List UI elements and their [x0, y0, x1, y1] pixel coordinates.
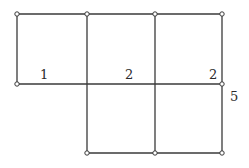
length-label-5: 5: [230, 89, 238, 104]
rectangle-net-diagram: 1 2 2 5: [0, 0, 249, 168]
vertex-point: [220, 151, 224, 155]
vertex-point: [153, 151, 157, 155]
vertex-point: [15, 82, 19, 86]
labels-group: 1 2 2 5: [40, 67, 238, 104]
length-label-1: 1: [40, 67, 48, 82]
vertex-point: [85, 12, 89, 16]
vertex-point: [15, 12, 19, 16]
length-label-2b: 2: [209, 67, 217, 82]
length-label-2a: 2: [125, 67, 133, 82]
segments-group: [17, 14, 222, 153]
vertex-point: [153, 12, 157, 16]
vertex-point: [220, 82, 224, 86]
vertex-point: [220, 12, 224, 16]
vertex-point: [85, 151, 89, 155]
